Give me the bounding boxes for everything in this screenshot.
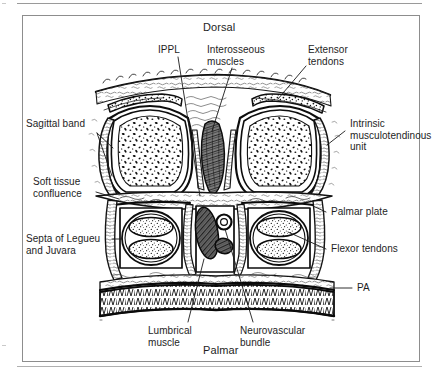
label-ippl: IPPL [158, 44, 180, 56]
leader-flexor [288, 232, 326, 249]
leader-neurovascular [225, 229, 253, 322]
leader-interosseous [212, 68, 232, 131]
label-intrinsic-musculotendinous-unit: Intrinsic musculotendinous unit [350, 118, 431, 153]
label-palmar-plate: Palmar plate [331, 206, 388, 218]
label-neurovascular-bundle: Neurovascular bundle [240, 325, 305, 348]
label-lumbrical-muscle: Lumbrical muscle [148, 325, 192, 348]
leader-lumbrical [188, 259, 204, 322]
leader-ippl [178, 57, 200, 196]
label-interosseous-muscles: Interosseous muscles [207, 44, 265, 67]
label-septa-legueu-juvara: Septa of Legueu and Juvara [26, 233, 100, 256]
leader-palmar-plate [313, 206, 326, 212]
label-sagittal-band: Sagittal band [26, 118, 85, 130]
label-soft-tissue-confluence: Soft tissue confluence [33, 176, 82, 199]
leader-intrinsic [327, 131, 345, 145]
orientation-label-palmar: Palmar [203, 344, 238, 356]
label-extensor-tendons: Extensor tendons [308, 44, 348, 67]
label-flexor-tendons: Flexor tendons [331, 243, 398, 255]
label-pa: PA [357, 282, 370, 294]
orientation-label-dorsal: Dorsal [203, 21, 235, 33]
leader-extensor [278, 66, 306, 99]
figure-page: Dorsal Palmar IPPL Interosseous muscles … [0, 0, 440, 369]
leader-soft-tissue [96, 192, 119, 199]
